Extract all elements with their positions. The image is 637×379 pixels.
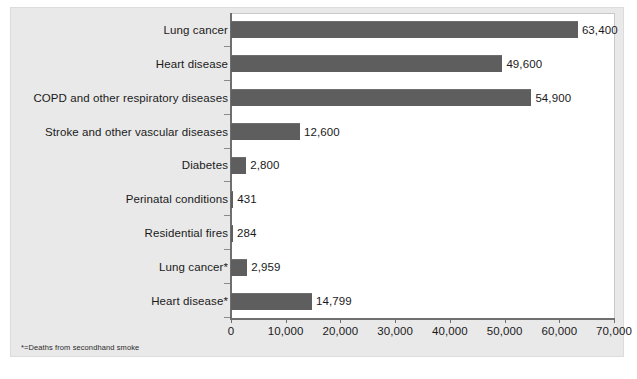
bar-container: 54,900 bbox=[231, 81, 571, 115]
chart-figure: Lung cancer63,400Heart disease49,600COPD… bbox=[0, 0, 637, 379]
bar-value-label: 284 bbox=[237, 227, 257, 239]
x-axis-tick-label: 40,000 bbox=[432, 325, 468, 337]
x-axis-tick-label: 50,000 bbox=[487, 325, 523, 337]
bar-row: COPD and other respiratory diseases54,90… bbox=[10, 81, 624, 115]
bar-value-label: 12,600 bbox=[304, 126, 340, 138]
x-axis-tick-label: 30,000 bbox=[377, 325, 413, 337]
bar bbox=[231, 293, 312, 310]
x-axis-tick-mark bbox=[450, 318, 451, 323]
bar-value-label: 54,900 bbox=[535, 92, 571, 104]
bar-container: 2,800 bbox=[231, 149, 280, 183]
category-label: Perinatal conditions bbox=[0, 193, 228, 205]
x-axis-tick-mark bbox=[286, 318, 287, 323]
x-axis-tick-label: 0 bbox=[228, 325, 235, 337]
bar bbox=[231, 157, 246, 174]
x-axis-tick-mark bbox=[340, 318, 341, 323]
category-label: Heart disease* bbox=[0, 295, 228, 307]
bar bbox=[231, 123, 300, 140]
bar-container: 12,600 bbox=[231, 115, 340, 149]
category-label: Diabetes bbox=[0, 159, 228, 171]
category-label: Lung cancer* bbox=[0, 261, 228, 273]
bar bbox=[231, 55, 502, 72]
bar-container: 2,959 bbox=[231, 250, 280, 284]
figure-panel: Lung cancer63,400Heart disease49,600COPD… bbox=[10, 7, 624, 357]
category-label: Lung cancer bbox=[0, 24, 228, 36]
category-label: Residential fires bbox=[0, 227, 228, 239]
bar-row: Residential fires284 bbox=[10, 216, 624, 250]
bar-value-label: 14,799 bbox=[316, 295, 352, 307]
bar-row: Stroke and other vascular diseases12,600 bbox=[10, 115, 624, 149]
bar bbox=[231, 21, 578, 38]
bar-container: 49,600 bbox=[231, 47, 542, 81]
bar-value-label: 63,400 bbox=[582, 24, 618, 36]
bar-container: 431 bbox=[231, 182, 257, 216]
x-axis-tick-label: 70,000 bbox=[596, 325, 632, 337]
x-axis-tick-mark bbox=[614, 318, 615, 323]
bar-row: Diabetes2,800 bbox=[10, 149, 624, 183]
bar bbox=[231, 191, 233, 208]
bar bbox=[231, 225, 233, 242]
category-label: COPD and other respiratory diseases bbox=[0, 92, 228, 104]
bar bbox=[231, 259, 247, 276]
x-axis-tick-mark bbox=[231, 318, 232, 323]
bar bbox=[231, 89, 531, 106]
x-axis-tick-mark bbox=[395, 318, 396, 323]
bar-row: Heart disease*14,799 bbox=[10, 284, 624, 318]
bar-row: Heart disease49,600 bbox=[10, 47, 624, 81]
chart-footnote: *=Deaths from secondhand smoke bbox=[21, 343, 139, 352]
bar-value-label: 2,959 bbox=[251, 261, 280, 273]
bar-row: Lung cancer*2,959 bbox=[10, 250, 624, 284]
bar-row: Lung cancer63,400 bbox=[10, 13, 624, 47]
x-axis-tick-label: 20,000 bbox=[323, 325, 359, 337]
category-label: Stroke and other vascular diseases bbox=[0, 126, 228, 138]
x-axis-tick-mark bbox=[559, 318, 560, 323]
bar-row: Perinatal conditions431 bbox=[10, 182, 624, 216]
category-label: Heart disease bbox=[0, 58, 228, 70]
x-axis-tick-label: 60,000 bbox=[541, 325, 577, 337]
bar-value-label: 2,800 bbox=[250, 159, 279, 171]
bar-container: 284 bbox=[231, 216, 257, 250]
bar-container: 14,799 bbox=[231, 284, 352, 318]
bar-value-label: 49,600 bbox=[506, 58, 542, 70]
x-axis-tick-label: 10,000 bbox=[268, 325, 304, 337]
bar-container: 63,400 bbox=[231, 13, 618, 47]
x-axis-tick-mark bbox=[505, 318, 506, 323]
bar-rows: Lung cancer63,400Heart disease49,600COPD… bbox=[10, 13, 624, 318]
bar-value-label: 431 bbox=[237, 193, 257, 205]
